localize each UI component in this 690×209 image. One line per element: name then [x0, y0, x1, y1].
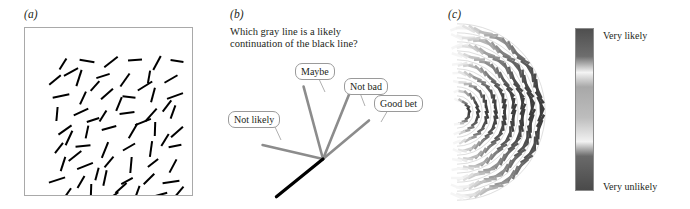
figure-root: (a) (b) Which gray line is a likely cont…	[0, 0, 690, 209]
field-segment	[87, 118, 99, 122]
field-segment	[148, 71, 150, 84]
callout-maybe[interactable]: Maybe	[295, 63, 335, 80]
callout-not-bad[interactable]: Not bad	[344, 78, 388, 95]
leader-not-likely	[275, 127, 281, 140]
field-segment	[49, 75, 61, 85]
field-segment	[171, 105, 176, 118]
field-segment	[116, 97, 122, 111]
field-segment	[66, 131, 73, 146]
random-line-field-svg	[25, 28, 192, 195]
random-line-field	[24, 27, 193, 196]
field-segment	[104, 57, 117, 67]
leader-not-bad	[360, 93, 365, 106]
field-segment	[144, 174, 155, 185]
likelihood-colorbar	[575, 28, 594, 191]
field-segment	[128, 59, 142, 60]
field-segment	[115, 183, 126, 193]
field-segment	[63, 188, 71, 195]
field-segment	[130, 157, 131, 173]
field-segment	[120, 73, 129, 86]
field-segment	[134, 186, 139, 195]
fan-ray	[276, 159, 323, 197]
callout-not-likely[interactable]: Not likely	[228, 111, 280, 128]
field-segment	[58, 125, 71, 134]
colorbar-bottom-label: Very unlikely	[603, 181, 657, 192]
polar-mark	[473, 77, 481, 80]
field-segment	[61, 157, 66, 171]
polar-mark	[477, 81, 486, 83]
fan-ray	[304, 87, 323, 159]
field-segment	[102, 126, 116, 130]
polar-mark	[468, 127, 475, 129]
field-segment	[56, 107, 57, 121]
field-segment	[102, 142, 108, 158]
field-segment	[69, 151, 82, 161]
panel-a: (a)	[0, 0, 215, 209]
polar-mark	[538, 125, 539, 139]
field-segment	[171, 60, 184, 62]
polar-mark	[469, 57, 480, 59]
field-segment	[101, 89, 113, 100]
field-segment	[150, 141, 152, 157]
polar-mark	[479, 32, 493, 34]
polar-mark	[473, 133, 481, 135]
field-segment	[77, 163, 93, 169]
field-segment	[100, 110, 107, 121]
field-segment	[91, 81, 100, 91]
polar-mark	[518, 65, 521, 78]
panel-a-label: (a)	[24, 8, 38, 20]
field-segment	[163, 100, 172, 111]
field-segment	[121, 178, 132, 184]
polar-mark	[464, 91, 469, 96]
field-segment	[171, 127, 183, 138]
field-segment	[64, 68, 78, 76]
polar-likelihood-map	[440, 0, 590, 209]
polar-mark	[489, 175, 502, 177]
field-segment	[86, 126, 89, 139]
field-segment	[161, 134, 168, 146]
field-segment	[151, 88, 155, 102]
colorbar-top-label: Very likely	[603, 30, 647, 41]
fan-ray	[263, 145, 323, 159]
field-segment	[123, 96, 136, 97]
polar-mark	[470, 93, 473, 100]
field-segment	[138, 82, 152, 91]
polar-mark	[462, 120, 468, 122]
panel-b: (b) Which gray line is a likely continua…	[215, 0, 440, 209]
polar-mark	[480, 90, 483, 98]
field-segment	[123, 144, 135, 151]
field-segment	[135, 119, 151, 125]
callout-good-bet[interactable]: Good bet	[374, 95, 423, 112]
polar-mark	[471, 122, 477, 126]
field-segment	[60, 58, 67, 69]
polar-mark	[454, 124, 460, 125]
field-segment	[169, 145, 182, 148]
polar-mark	[495, 182, 509, 185]
field-segment	[151, 193, 167, 195]
panel-c: (c) Very likely Very unlikely	[440, 0, 690, 209]
field-segment	[76, 70, 81, 86]
field-segment	[49, 177, 65, 182]
field-segment	[120, 112, 135, 114]
polar-mark	[478, 128, 485, 133]
field-segment	[148, 159, 158, 167]
field-segment	[169, 159, 176, 172]
field-segment	[78, 176, 85, 188]
field-segment	[95, 168, 98, 181]
polar-mark	[491, 90, 492, 99]
leader-good-bet	[381, 110, 388, 122]
field-segment	[103, 170, 106, 186]
leader-maybe	[319, 79, 325, 92]
field-segment	[105, 157, 114, 168]
field-segment	[91, 184, 92, 195]
field-segment	[167, 93, 183, 99]
field-segment	[175, 187, 184, 195]
field-segment	[96, 74, 109, 78]
field-segment	[53, 94, 70, 98]
field-segment	[55, 143, 63, 153]
field-segment	[74, 109, 89, 116]
field-segment	[163, 181, 180, 183]
field-segment	[80, 60, 95, 63]
field-segment	[153, 56, 161, 70]
polar-likelihood-map-svg	[440, 0, 590, 209]
